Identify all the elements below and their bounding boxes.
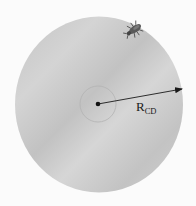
radius-label-main: R	[136, 99, 145, 114]
radius-label-subscript: CD	[145, 106, 157, 116]
cd-diagram: RCD	[0, 0, 196, 206]
